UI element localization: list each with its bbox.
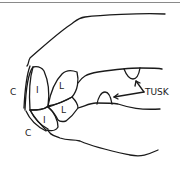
label-i-lower: I bbox=[43, 115, 46, 125]
tusk-arrow-lower bbox=[114, 92, 144, 97]
label-tusk: TUSK bbox=[144, 87, 170, 97]
upper-tusk bbox=[124, 68, 140, 79]
horse-mouth-diagram: C I L C I L TUSK bbox=[0, 0, 180, 172]
lower-tusk bbox=[97, 92, 112, 104]
label-l-lower: L bbox=[61, 105, 66, 115]
upper-intermediate-tooth bbox=[29, 67, 48, 110]
label-c-upper: C bbox=[10, 87, 16, 97]
label-c-lower: C bbox=[25, 128, 31, 138]
lower-gum-line bbox=[78, 103, 160, 109]
label-l-upper: L bbox=[59, 81, 64, 91]
upper-gum-line bbox=[78, 68, 162, 83]
upper-muzzle-outline bbox=[27, 14, 165, 66]
label-i-upper: I bbox=[36, 85, 39, 95]
lower-jaw-outline bbox=[48, 130, 158, 156]
